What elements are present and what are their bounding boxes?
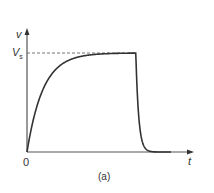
x-axis-arrow-icon (187, 150, 194, 155)
figure-caption: (a) (98, 172, 110, 182)
origin-label: 0 (23, 157, 29, 168)
y-axis-label: v (16, 29, 22, 40)
chart-plot-area (0, 0, 214, 193)
x-axis-label: t (188, 156, 191, 167)
chart: v Vs 0 t (a) (0, 0, 214, 193)
voltage-curve (27, 53, 171, 152)
vs-label: Vs (12, 47, 23, 60)
y-axis-arrow-icon (25, 28, 30, 35)
